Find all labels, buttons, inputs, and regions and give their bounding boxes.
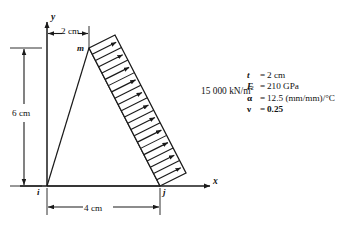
- dimension-left-label: 6 cm: [12, 108, 30, 118]
- axis-x-label: x: [213, 176, 218, 186]
- property-equals: =: [258, 81, 267, 92]
- property-value: 0.25: [267, 104, 283, 114]
- property-symbol: E: [247, 81, 258, 92]
- property-symbol: ν: [247, 104, 258, 115]
- property-symbol: t: [247, 70, 258, 81]
- property-value: 2 cm: [267, 70, 285, 80]
- dimension-bottom: [47, 188, 160, 215]
- property-value: 210 GPa: [267, 81, 299, 91]
- page-top-artifact: [74, 1, 194, 7]
- material-properties-list: t=2 cm E=210 GPa α=12.5 (mm/mm)/°C ν=0.2…: [247, 70, 355, 116]
- property-row-thickness: t=2 cm: [247, 70, 355, 81]
- element-edge-i-m: [47, 48, 89, 186]
- node-label-j: j: [163, 187, 166, 197]
- load-magnitude-text: 15 000 kN/m: [201, 86, 250, 96]
- node-label-i: i: [37, 187, 40, 197]
- property-equals: =: [258, 93, 267, 104]
- dimension-top-label: 2 cm: [61, 26, 79, 36]
- axis-y-label: y: [51, 12, 55, 22]
- property-row-modulus: E=210 GPa: [247, 81, 355, 92]
- property-equals: =: [258, 104, 267, 115]
- property-symbol: α: [247, 93, 258, 104]
- property-row-poisson-ratio: ν=0.25: [247, 104, 355, 115]
- property-equals: =: [258, 70, 267, 81]
- node-label-m: m: [77, 43, 84, 53]
- engineering-figure: y x i j m 2 cm 6 cm 4 cm 15 000 kN/m2 t=…: [0, 0, 356, 228]
- dimension-bottom-label: 4 cm: [84, 203, 102, 213]
- property-value: 12.5 (mm/mm)/°C: [267, 93, 335, 103]
- pressure-load-band: [89, 35, 186, 186]
- property-row-thermal-expansion: α=12.5 (mm/mm)/°C: [247, 93, 355, 104]
- load-magnitude-label: 15 000 kN/m2: [201, 86, 254, 96]
- load-arrows: [92, 42, 181, 179]
